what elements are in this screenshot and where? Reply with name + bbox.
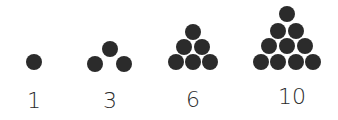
dot <box>270 23 286 39</box>
label-1: 1 <box>27 90 41 112</box>
dot <box>116 56 132 72</box>
dot-group-6 <box>168 24 218 70</box>
dot <box>185 24 201 40</box>
dot <box>102 41 118 57</box>
dot <box>288 54 304 70</box>
dot <box>176 39 192 55</box>
dot <box>253 54 269 70</box>
dot <box>194 39 210 55</box>
dot <box>168 54 184 70</box>
dot <box>185 54 201 70</box>
dot <box>26 54 42 70</box>
dot-group-1 <box>26 54 42 70</box>
dot <box>297 38 313 54</box>
dot <box>288 23 304 39</box>
dot <box>202 54 218 70</box>
dot <box>279 38 295 54</box>
dot-group-10 <box>253 6 321 70</box>
label-6: 6 <box>186 89 200 111</box>
label-10: 10 <box>278 86 306 108</box>
dot <box>87 56 103 72</box>
dot <box>270 54 286 70</box>
dot <box>279 6 295 22</box>
dot <box>305 54 321 70</box>
dot-group-3 <box>87 41 132 72</box>
label-3: 3 <box>103 90 117 112</box>
dot <box>261 38 277 54</box>
